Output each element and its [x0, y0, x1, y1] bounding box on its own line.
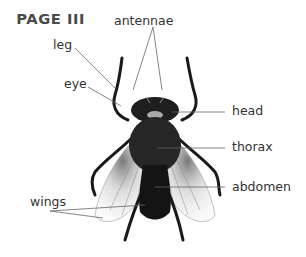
label-abdomen: abdomen — [232, 181, 291, 194]
label-leg: leg — [53, 39, 72, 52]
label-head: head — [232, 105, 263, 118]
label-wings: wings — [30, 196, 66, 209]
fly-illustration — [0, 0, 306, 257]
label-eye: eye — [64, 78, 87, 91]
label-antennae: antennae — [114, 15, 173, 28]
label-thorax: thorax — [232, 141, 273, 154]
